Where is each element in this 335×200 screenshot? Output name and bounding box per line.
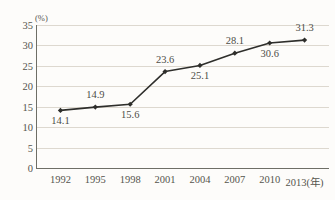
gridline <box>36 127 329 128</box>
y-axis-unit-label: (%) <box>35 13 48 23</box>
x-axis-tick-label: 2004 <box>189 174 210 185</box>
y-axis-tick-label: 0 <box>3 163 33 174</box>
x-axis-tick-label: 2001 <box>155 174 176 185</box>
y-axis-tick-label: 35 <box>3 20 33 31</box>
x-axis-tick-label: 2010 <box>259 174 280 185</box>
data-point-value-label: 14.1 <box>51 115 69 126</box>
x-axis-tick-label: 2007 <box>224 174 245 185</box>
data-point-value-label: 30.6 <box>261 48 279 59</box>
x-axis-tick-label: 1992 <box>50 174 71 185</box>
data-point-value-label: 14.9 <box>86 89 104 100</box>
gridline <box>36 45 329 46</box>
data-point-value-label: 15.6 <box>121 109 139 120</box>
y-axis-tick-label: 20 <box>3 81 33 92</box>
x-axis-tick-label: 1995 <box>85 174 106 185</box>
gridline <box>36 148 329 149</box>
y-axis-tick-label: 15 <box>3 101 33 112</box>
x-axis-tick-label: 2013(年) <box>286 174 324 189</box>
gridline <box>36 25 329 26</box>
y-axis-tick-label: 30 <box>3 40 33 51</box>
gridline <box>36 66 329 67</box>
data-point-value-label: 28.1 <box>226 35 244 46</box>
y-axis-tick-labels: 05101520253035 <box>0 0 33 200</box>
gridline <box>36 86 329 87</box>
y-axis-tick-label: 10 <box>3 122 33 133</box>
data-point-value-label: 23.6 <box>156 54 174 65</box>
y-axis-tick-label: 25 <box>3 60 33 71</box>
y-axis-tick-label: 5 <box>3 142 33 153</box>
gridline <box>36 107 329 108</box>
data-point-value-label: 31.3 <box>295 22 313 33</box>
y-axis-line <box>36 25 37 169</box>
plot-area <box>36 25 329 168</box>
x-axis-line <box>36 168 329 169</box>
x-axis-tick-label: 1998 <box>120 174 141 185</box>
data-point-value-label: 25.1 <box>191 70 209 81</box>
line-chart: 05101520253035 (%) 199219951998200120042… <box>0 0 335 200</box>
